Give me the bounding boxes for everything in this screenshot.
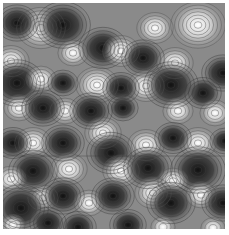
contour-plot [3, 3, 225, 229]
contour-plot-canvas [3, 3, 225, 229]
